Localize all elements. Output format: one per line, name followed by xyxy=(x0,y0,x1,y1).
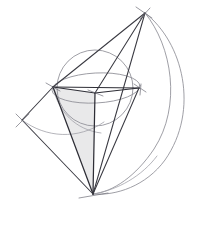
geometric-construction-drawing xyxy=(0,0,205,250)
edge-left-vertex-to-right-vertex xyxy=(53,87,139,88)
edge-right-vertex-to-bottom-apex xyxy=(93,88,139,194)
edge-apex-top-to-bottom-apex xyxy=(93,13,145,194)
figure-canvas xyxy=(0,0,205,250)
edge-left-vertex-to-far-left xyxy=(22,87,53,120)
